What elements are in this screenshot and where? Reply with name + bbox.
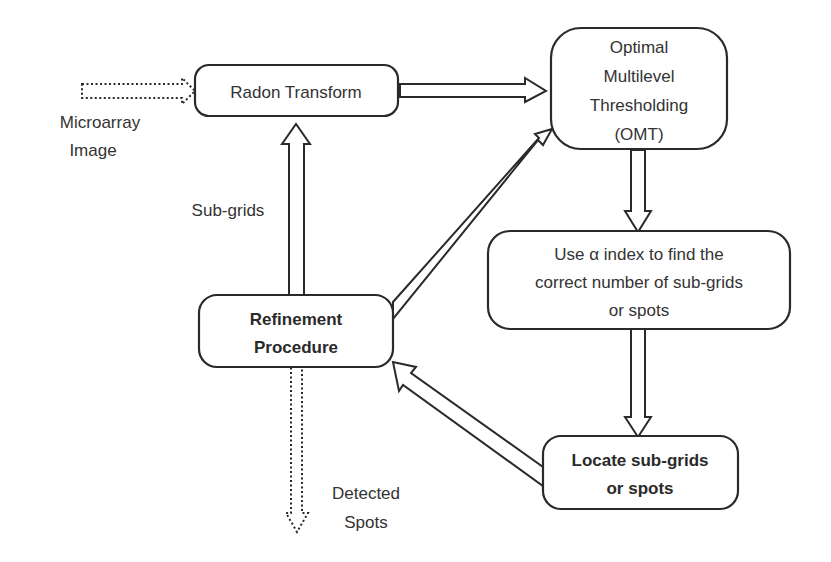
radon-label: Radon Transform xyxy=(230,83,361,102)
flow-diagram: Radon Transform Optimal Multilevel Thres… xyxy=(0,0,831,562)
subgrids-label: Sub-grids xyxy=(192,201,265,220)
omt-to-alpha-arrow xyxy=(625,150,651,232)
node-alpha-index: Use α index to find the correct number o… xyxy=(488,231,790,329)
output-label-line-2: Spots xyxy=(344,513,387,532)
alpha-line-3: or spots xyxy=(609,301,669,320)
omt-line-1: Optimal xyxy=(610,38,669,57)
output-arrow xyxy=(286,367,308,532)
node-refinement: Refinement Procedure xyxy=(199,295,393,367)
node-omt: Optimal Multilevel Thresholding (OMT) xyxy=(551,28,727,149)
alpha-line-1: Use α index to find the xyxy=(554,245,724,264)
locate-to-refine-arrow xyxy=(393,362,543,486)
omt-line-3: Thresholding xyxy=(590,96,688,115)
node-locate: Locate sub-grids or spots xyxy=(543,436,738,509)
input-label-line-2: Image xyxy=(69,141,116,160)
input-arrow xyxy=(82,78,195,104)
refine-to-radon-arrow xyxy=(282,124,310,295)
node-radon-transform: Radon Transform xyxy=(195,65,398,116)
alpha-line-2: correct number of sub-grids xyxy=(535,273,743,292)
locate-line-1: Locate sub-grids xyxy=(572,451,709,470)
refine-line-2: Procedure xyxy=(254,338,338,357)
alpha-to-locate-arrow xyxy=(625,329,651,437)
omt-line-4: (OMT) xyxy=(614,125,663,144)
radon-to-omt-arrow xyxy=(400,78,546,102)
input-label-line-1: Microarray xyxy=(60,113,141,132)
output-label-line-1: Detected xyxy=(332,484,400,503)
refine-line-1: Refinement xyxy=(250,310,343,329)
omt-line-2: Multilevel xyxy=(604,67,675,86)
locate-line-2: or spots xyxy=(606,479,673,498)
